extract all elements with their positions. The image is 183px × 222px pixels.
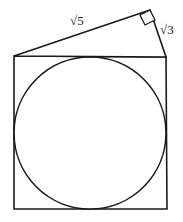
inscribed-circle-shape: [14, 57, 166, 209]
geometry-figure: √5 √3: [0, 0, 183, 222]
hypotenuse-label: √5: [70, 13, 84, 28]
geometry-canvas: √5 √3: [0, 0, 183, 222]
short-leg-label: √3: [160, 22, 174, 37]
